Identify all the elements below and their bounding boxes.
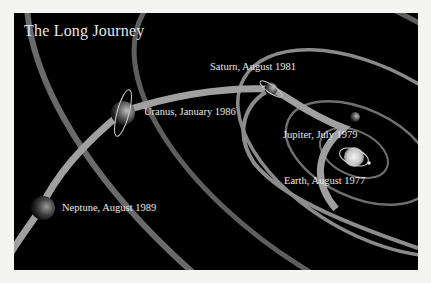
neptune-orbit [14, 13, 418, 270]
jupiter-icon [350, 112, 360, 122]
label-earth: Earth, August 1977 [284, 175, 365, 186]
sun-icon [344, 147, 364, 167]
label-saturn: Saturn, August 1981 [210, 61, 296, 72]
diagram-panel: The Long Journey Saturn, August 1981 Ura… [14, 13, 418, 270]
orbits [14, 13, 418, 270]
page-title: The Long Journey [24, 22, 145, 40]
earth-icon [367, 161, 371, 165]
orbit-diagram [14, 13, 418, 270]
saturn-orbit [203, 13, 418, 270]
neptune-icon [31, 196, 55, 220]
label-uranus: Uranus, January 1986 [144, 106, 236, 117]
label-jupiter: Jupiter, July 1979 [283, 129, 358, 140]
label-neptune: Neptune, August 1989 [62, 202, 156, 213]
